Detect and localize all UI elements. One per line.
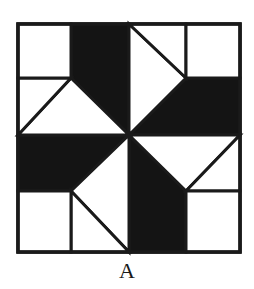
quilt-block-figure: A xyxy=(0,0,254,289)
figure-caption: A xyxy=(0,258,254,284)
corner-square-bottom-right xyxy=(186,191,240,252)
quilt-block-diagram xyxy=(0,0,254,289)
corner-square-top-left xyxy=(18,24,71,78)
corner-square-top-right xyxy=(186,24,240,78)
corner-square-bottom-left xyxy=(18,191,71,252)
